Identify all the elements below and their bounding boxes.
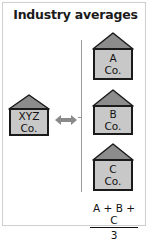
house-company-c: C Co. xyxy=(92,143,134,192)
average-formula: A + B + C 3 xyxy=(90,202,138,240)
house-label-line1: B xyxy=(92,108,134,120)
house-company-a: A Co. xyxy=(92,32,134,81)
house-label-line1: C xyxy=(92,163,134,175)
formula-numerator: A + B + C xyxy=(90,202,138,228)
house-label-line1: A xyxy=(92,52,134,64)
diagram-title: Industry averages xyxy=(0,7,151,22)
bracket-line xyxy=(81,40,82,192)
double-arrow-icon xyxy=(55,111,77,123)
house-company-b: B Co. xyxy=(92,89,134,136)
house-label-line1: XYZ xyxy=(8,110,50,122)
house-label-line2: Co. xyxy=(92,175,134,187)
house-label-line2: Co. xyxy=(8,122,50,134)
bracket-tick xyxy=(78,117,82,118)
house-label-line2: Co. xyxy=(92,64,134,76)
house-label-line2: Co. xyxy=(92,120,134,132)
formula-denominator: 3 xyxy=(90,228,138,240)
house-xyz-company: XYZ Co. xyxy=(8,94,50,137)
